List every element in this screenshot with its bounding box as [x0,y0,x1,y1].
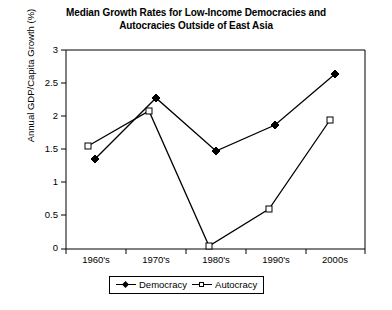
x-axis-ticks [66,249,365,254]
series-markers-democracy [91,70,339,163]
open-square-icon [192,280,212,289]
legend-label-autocracy: Autocracy [215,279,257,290]
legend-item-democracy: Democracy [116,279,187,290]
series-line-democracy [95,74,335,159]
filled-diamond-icon [116,280,136,289]
legend-item-autocracy: Autocracy [192,279,257,290]
plot-canvas [0,0,392,310]
series-markers-autocracy [85,108,333,249]
chart-figure: Median Growth Rates for Low-Income Democ… [0,0,392,310]
legend-label-democracy: Democracy [139,279,187,290]
data-point-autocracy-2000s [327,117,333,123]
data-point-autocracy-1980s [206,243,212,249]
data-point-autocracy-1960s [85,143,91,149]
series-line-autocracy [88,111,330,246]
chart-legend: Democracy Autocracy [109,276,264,294]
data-point-autocracy-1970s [146,108,152,114]
y-axis-ticks [61,50,66,249]
data-point-autocracy-1990s [266,206,272,212]
